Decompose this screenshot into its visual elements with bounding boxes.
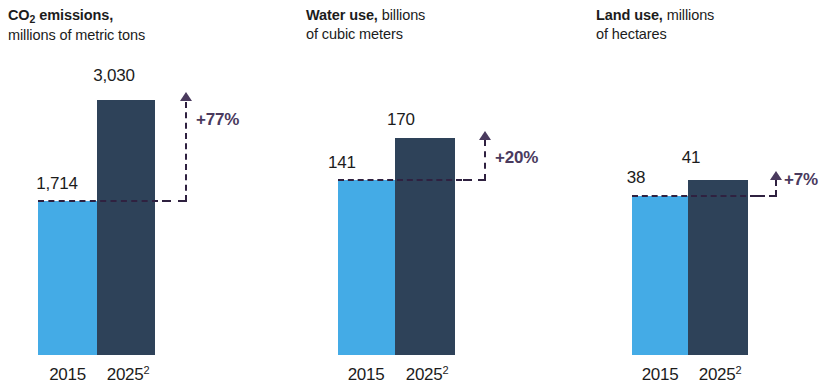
reference-line-2015 xyxy=(38,200,158,202)
value-label-2025: 3,030 xyxy=(66,66,162,86)
delta-span-line xyxy=(484,140,486,180)
delta-span-foot xyxy=(769,195,777,197)
axis-label-2025-text: 2025 xyxy=(699,365,736,384)
axis-label-2025-text: 2025 xyxy=(406,365,443,384)
bar-2015 xyxy=(632,196,688,355)
value-label-2015: 38 xyxy=(603,168,669,188)
reference-line-2015 xyxy=(338,179,462,181)
delta-arrow-up-icon xyxy=(180,92,192,101)
axis-label-2025-text: 2025 xyxy=(107,365,144,384)
value-label-2025: 41 xyxy=(658,148,724,168)
chart-panel-water-use: Water use, billions of cubic meters 141 … xyxy=(290,0,580,387)
delta-label: +20% xyxy=(495,148,538,168)
plot-area-land: 38 41 +7% 2015 20252 xyxy=(580,0,828,387)
delta-label: +77% xyxy=(196,110,239,130)
delta-span-line xyxy=(185,102,187,201)
plot-area-water: 141 170 +20% 2015 20252 xyxy=(290,0,580,387)
bar-2025 xyxy=(97,100,155,355)
bar-2025 xyxy=(395,138,455,355)
axis-label-2025: 20252 xyxy=(97,365,159,385)
delta-label: +7% xyxy=(784,170,818,190)
reference-tick-2015 xyxy=(756,195,765,197)
bar-2015 xyxy=(338,180,395,355)
axis-label-2015: 2015 xyxy=(337,365,395,385)
reference-tick-2015 xyxy=(463,179,472,181)
value-label-2015: 141 xyxy=(309,153,375,173)
axis-label-2025: 20252 xyxy=(688,365,752,385)
axis-label-2025: 20252 xyxy=(395,365,459,385)
reference-line-2015 xyxy=(632,195,756,197)
chart-group: CO2 emissions, millions of metric tons 1… xyxy=(0,0,828,387)
chart-panel-co2-emissions: CO2 emissions, millions of metric tons 1… xyxy=(0,0,290,387)
reference-tick-2015 xyxy=(162,200,171,202)
delta-span-foot xyxy=(178,200,187,202)
axis-label-2025-footnote: 2 xyxy=(143,364,149,376)
chart-panel-land-use: Land use, millions of hectares 38 41 +7%… xyxy=(580,0,828,387)
delta-span-foot xyxy=(478,179,486,181)
axis-label-2025-footnote: 2 xyxy=(442,364,448,376)
plot-area-co2: 1,714 3,030 +77% 2015 20252 xyxy=(0,0,290,387)
delta-arrow-up-icon xyxy=(479,131,491,140)
axis-label-2025-footnote: 2 xyxy=(735,364,741,376)
bar-2025 xyxy=(688,180,748,355)
bar-2015 xyxy=(38,201,97,355)
axis-label-2015: 2015 xyxy=(38,365,97,385)
axis-label-2015: 2015 xyxy=(631,365,689,385)
value-label-2015: 1,714 xyxy=(14,174,100,194)
value-label-2025: 170 xyxy=(368,110,434,130)
delta-span-line xyxy=(775,180,777,196)
delta-arrow-up-icon xyxy=(770,171,782,180)
